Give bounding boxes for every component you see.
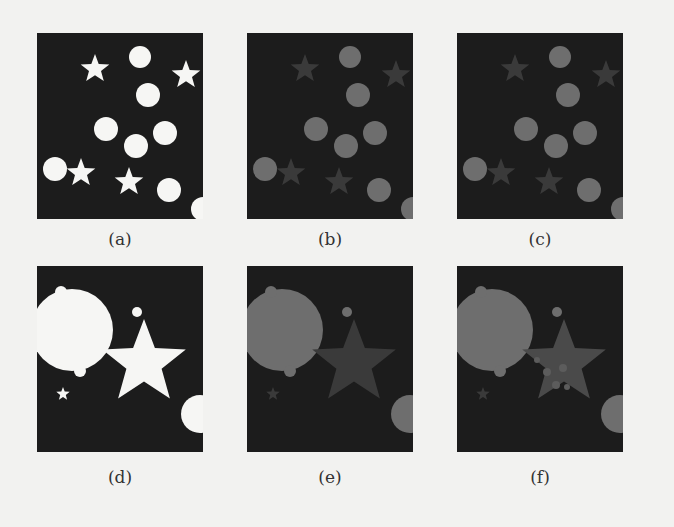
panel-e: [247, 266, 413, 452]
circle-shape: [124, 134, 148, 158]
circle-shape: [463, 157, 487, 181]
caption-b: (b): [247, 229, 413, 249]
artifact-spot: [564, 384, 570, 390]
circle-shape: [514, 117, 538, 141]
star-shape: [172, 60, 201, 87]
circle-shape: [363, 121, 387, 145]
blob-bump-shape: [494, 365, 506, 377]
blob-bump-shape: [55, 286, 67, 298]
circle-shape: [136, 83, 160, 107]
star-shape: [487, 158, 516, 185]
circle-shape: [601, 395, 623, 433]
small-star-shape: [266, 387, 279, 400]
circle-shape: [549, 46, 571, 68]
caption-a: (a): [37, 229, 203, 249]
circle-shape: [556, 83, 580, 107]
large-blob-shape: [457, 289, 533, 371]
star-shape: [592, 60, 621, 87]
panel-image-f: [457, 266, 623, 452]
large-blob-shape: [37, 289, 113, 371]
star-shape: [325, 167, 354, 194]
circle-shape: [401, 197, 413, 219]
star-shape: [115, 167, 144, 194]
small-star-shape: [56, 387, 69, 400]
panel-image-c: [457, 33, 623, 219]
panel-image-e: [247, 266, 413, 452]
circle-shape: [391, 395, 413, 433]
caption-f: (f): [457, 467, 623, 487]
star-shape: [535, 167, 564, 194]
circle-shape: [153, 121, 177, 145]
panel-c: [457, 33, 623, 219]
artifact-spot: [559, 364, 567, 372]
large-star-shape: [312, 319, 396, 399]
caption-c: (c): [457, 229, 623, 249]
circle-shape: [367, 178, 391, 202]
circle-shape: [342, 307, 352, 317]
large-blob-shape: [247, 289, 323, 371]
panel-b: [247, 33, 413, 219]
star-shape: [291, 54, 320, 81]
circle-shape: [94, 117, 118, 141]
artifact-spot: [534, 357, 540, 363]
circle-shape: [129, 46, 151, 68]
circle-shape: [191, 197, 203, 219]
large-star-shape: [102, 319, 186, 399]
caption-e: (e): [247, 467, 413, 487]
star-shape: [81, 54, 110, 81]
star-shape: [67, 158, 96, 185]
circle-shape: [577, 178, 601, 202]
circle-shape: [552, 307, 562, 317]
circle-shape: [181, 395, 203, 433]
panel-image-b: [247, 33, 413, 219]
circle-shape: [132, 307, 142, 317]
panel-image-a: [37, 33, 203, 219]
panel-d: [37, 266, 203, 452]
circle-shape: [43, 157, 67, 181]
circle-shape: [573, 121, 597, 145]
panel-f: [457, 266, 623, 452]
circle-shape: [339, 46, 361, 68]
circle-shape: [544, 134, 568, 158]
circle-shape: [157, 178, 181, 202]
circle-shape: [304, 117, 328, 141]
blob-bump-shape: [475, 286, 487, 298]
circle-shape: [253, 157, 277, 181]
small-star-shape: [476, 387, 489, 400]
circle-shape: [611, 197, 623, 219]
panel-image-d: [37, 266, 203, 452]
blob-bump-shape: [284, 365, 296, 377]
star-shape: [277, 158, 306, 185]
panel-a: [37, 33, 203, 219]
circle-shape: [334, 134, 358, 158]
blob-bump-shape: [265, 286, 277, 298]
artifact-spot: [543, 368, 551, 376]
caption-d: (d): [37, 467, 203, 487]
star-shape: [501, 54, 530, 81]
circle-shape: [346, 83, 370, 107]
artifact-spot: [552, 381, 560, 389]
star-shape: [382, 60, 411, 87]
blob-bump-shape: [74, 365, 86, 377]
